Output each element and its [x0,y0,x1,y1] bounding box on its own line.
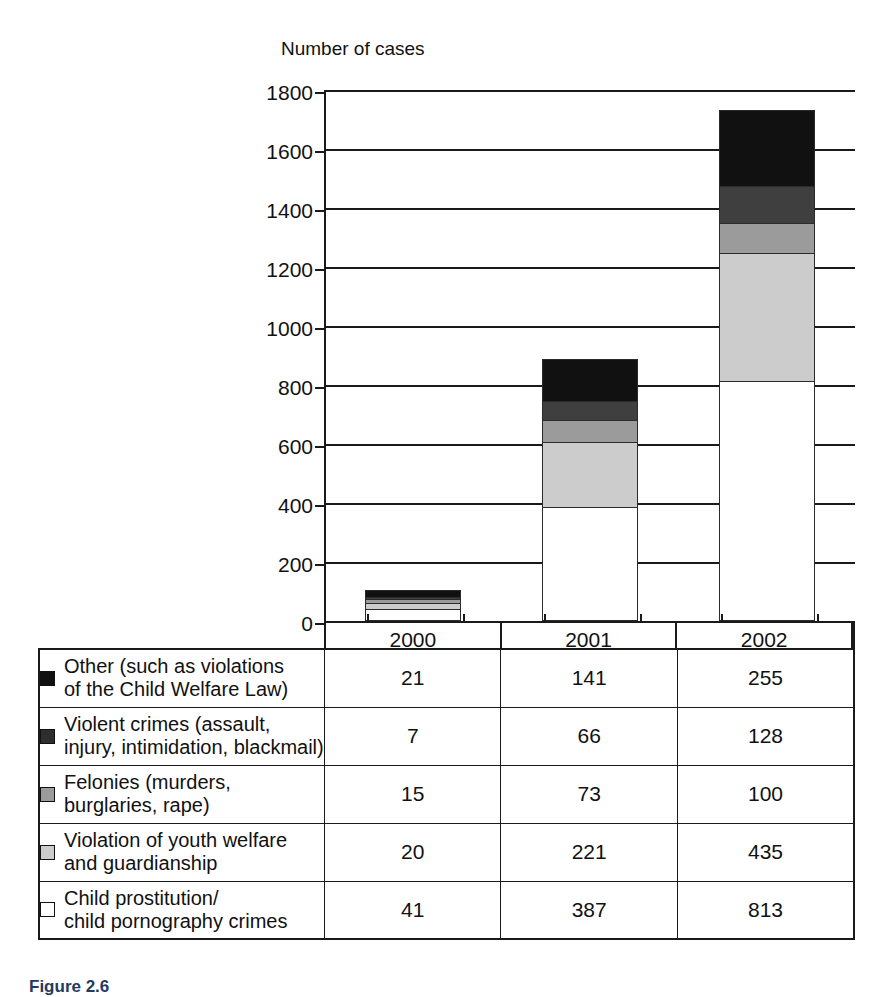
legend-cell: Violent crimes (assault,injury, intimida… [39,707,324,765]
value-cell-2001: 141 [501,649,678,707]
legend-cell: Other (such as violationsof the Child We… [39,649,324,707]
legend-label: Violent crimes (assault,injury, intimida… [64,713,324,759]
legend-data-table: Other (such as violationsof the Child We… [38,648,855,940]
legend-label-line1: Felonies (murders, [64,771,231,794]
gridline-1800: 1800 [324,90,855,92]
y-tick-label-1800: 1800 [266,82,313,103]
y-tick-mark-1800 [315,92,324,94]
value-cell-2000: 20 [324,823,500,881]
y-tick-mark-0 [315,623,324,625]
legend-label: Felonies (murders,burglaries, rape) [64,771,231,817]
bar-segment-2002-violent [719,186,815,224]
value-cell-2002: 813 [677,881,854,939]
legend-entry: Violation of youth welfareand guardiansh… [40,829,324,875]
table-row: Violation of youth welfareand guardiansh… [39,823,854,881]
x-tick-mark-2001-right [640,614,642,623]
bar-segment-2001-felonies [542,420,638,442]
bar-segment-2002-other [719,110,815,185]
bar-segment-2002-violation [719,253,815,381]
value-cell-2001: 66 [501,707,678,765]
bar-segment-2001-violent [542,401,638,420]
x-tick-mark-2001-left [544,614,546,623]
value-cell-2001: 221 [501,823,678,881]
chart-plot-area: 020040060080010001200140016001800 [324,90,855,621]
y-tick-label-1000: 1000 [266,318,313,339]
legend-table-body: Other (such as violationsof the Child We… [39,649,854,939]
legend-label-line2: injury, intimidation, blackmail) [64,736,324,759]
value-cell-2000: 41 [324,881,500,939]
y-tick-mark-400 [315,505,324,507]
legend-entry: Child prostitution/child pornography cri… [40,887,324,933]
legend-label: Other (such as violationsof the Child We… [64,655,288,701]
legend-label-line2: child pornography crimes [64,910,287,933]
value-cell-2002: 128 [677,707,854,765]
x-tick-mark-2002-right [817,614,819,623]
bar-2001 [542,359,638,621]
legend-cell: Violation of youth welfareand guardiansh… [39,823,324,881]
legend-swatch-youth-welfare-icon [40,845,55,860]
y-tick-label-600: 600 [278,436,313,457]
y-tick-label-1600: 1600 [266,141,313,162]
bar-segment-2002-child [719,381,815,621]
y-tick-label-200: 200 [278,554,313,575]
legend-label-line2: burglaries, rape) [64,794,231,817]
value-cell-2001: 387 [501,881,678,939]
table-row: Violent crimes (assault,injury, intimida… [39,707,854,765]
table-row: Felonies (murders,burglaries, rape)15731… [39,765,854,823]
legend-entry: Other (such as violationsof the Child We… [40,655,324,701]
value-cell-2001: 73 [501,765,678,823]
legend-label-line1: Child prostitution/ [64,887,287,910]
legend-swatch-violent-crimes-icon [40,729,55,744]
value-cell-2002: 255 [677,649,854,707]
value-cell-2000: 21 [324,649,500,707]
table-row: Other (such as violationsof the Child We… [39,649,854,707]
value-cell-2000: 15 [324,765,500,823]
legend-label-line2: and guardianship [64,852,287,875]
bar-2000 [365,590,461,621]
bar-segment-2002-felonies [719,223,815,253]
bar-segment-2000-child [365,609,461,621]
legend-label: Child prostitution/child pornography cri… [64,887,287,933]
legend-label-line2: of the Child Welfare Law) [64,678,288,701]
bar-segment-2001-violation [542,442,638,507]
y-tick-mark-600 [315,446,324,448]
legend-entry: Felonies (murders,burglaries, rape) [40,771,324,817]
legend-entry: Violent crimes (assault,injury, intimida… [40,713,324,759]
x-tick-mark-2000-left [367,614,369,623]
bar-segment-2001-other [542,359,638,401]
y-tick-mark-1600 [315,151,324,153]
y-tick-label-1200: 1200 [266,259,313,280]
legend-label-line1: Violent crimes (assault, [64,713,324,736]
legend-cell: Child prostitution/child pornography cri… [39,881,324,939]
y-tick-label-1400: 1400 [266,200,313,221]
x-tick-mark-2002-left [721,614,723,623]
value-cell-2002: 435 [677,823,854,881]
legend-label: Violation of youth welfareand guardiansh… [64,829,287,875]
bar-2002 [719,110,815,621]
legend-swatch-felonies-icon [40,787,55,802]
legend-swatch-child-prostitution-icon [40,902,55,917]
y-axis-title: Number of cases [281,38,425,60]
figure-caption: Figure 2.6 [29,977,109,997]
table-row: Child prostitution/child pornography cri… [39,881,854,939]
value-cell-2002: 100 [677,765,854,823]
y-tick-mark-800 [315,387,324,389]
y-tick-label-800: 800 [278,377,313,398]
y-tick-mark-1000 [315,328,324,330]
y-tick-label-400: 400 [278,495,313,516]
legend-label-line1: Violation of youth welfare [64,829,287,852]
y-tick-mark-1200 [315,269,324,271]
y-tick-mark-1400 [315,210,324,212]
legend-swatch-other-icon [40,671,55,686]
x-tick-mark-2000-right [463,614,465,623]
legend-label-line1: Other (such as violations [64,655,288,678]
bar-segment-2001-child [542,507,638,621]
value-cell-2000: 7 [324,707,500,765]
y-tick-label-0: 0 [301,613,313,634]
legend-cell: Felonies (murders,burglaries, rape) [39,765,324,823]
y-tick-mark-200 [315,564,324,566]
